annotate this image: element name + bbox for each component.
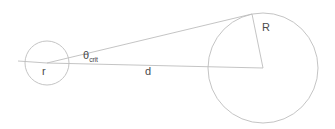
theta-subscript: crit <box>89 56 98 63</box>
tangent-line <box>47 14 252 63</box>
geometry-diagram: r θcrit d R <box>0 0 335 129</box>
diagram-canvas <box>0 0 335 129</box>
distance-label: d <box>145 66 151 77</box>
critical-angle-label: θcrit <box>83 50 98 61</box>
center-distance-line <box>47 63 263 68</box>
small-radius-label: r <box>42 66 46 77</box>
large-radius-label: R <box>262 22 270 33</box>
left-tick-line <box>18 61 47 63</box>
